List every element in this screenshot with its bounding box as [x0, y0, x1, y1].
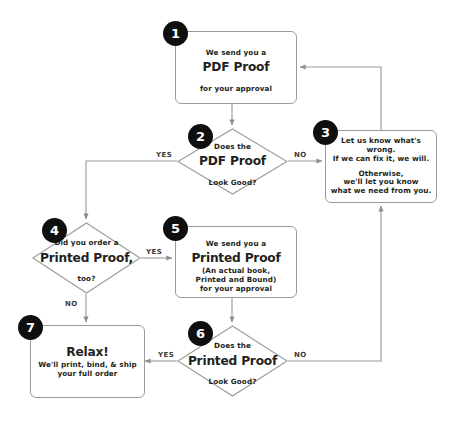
- edge-6-no-to-3: [288, 206, 381, 361]
- node-3-line5: what we need from you.: [330, 187, 432, 196]
- edge-2-yes-to-4: [86, 161, 177, 219]
- node-4-line2: Printed Proof,: [40, 251, 133, 266]
- node-6-line2: Printed Proof: [188, 354, 277, 369]
- node-4-line1: Did you order a: [54, 238, 118, 247]
- edge-label-2-no: NO: [293, 151, 308, 159]
- node-3-text: Let us know what's wrong. If we can fix …: [326, 137, 436, 196]
- node-2-badge: 2: [188, 124, 213, 149]
- node-7-line3: your full order: [38, 370, 137, 379]
- node-3-line2: If we can fix it, we will.: [330, 155, 432, 164]
- node-3-badge: 3: [313, 120, 338, 145]
- edge-label-2-yes: YES: [155, 151, 173, 159]
- edge-label-4-yes: YES: [145, 248, 163, 256]
- node-2-line2: PDF Proof: [199, 154, 266, 169]
- node-3-line1: Let us know what's wrong.: [330, 137, 432, 155]
- node-7-text: Relax! We'll print, bind, & ship your fu…: [34, 344, 141, 378]
- node-5-line5: for your approval: [191, 285, 280, 294]
- node-1-line3: for your approval: [200, 84, 272, 93]
- edge-label-6-no: NO: [293, 351, 308, 359]
- node-5-badge: 5: [163, 216, 188, 241]
- node-1-badge: 1: [163, 21, 188, 46]
- node-6-badge: 6: [188, 321, 213, 346]
- node-1-line1: We send you a: [206, 48, 266, 57]
- flowchart-canvas: We send you a PDF Proof for your approva…: [0, 0, 461, 422]
- node-6-line1: Does the: [214, 341, 251, 350]
- node-5-text: We send you a Printed Proof (An actual b…: [187, 231, 284, 294]
- node-1-pdf-proof[interactable]: We send you a PDF Proof for your approva…: [175, 31, 297, 104]
- node-4-line3: too?: [78, 274, 96, 283]
- node-7-relax[interactable]: Relax! We'll print, bind, & ship your fu…: [30, 325, 145, 398]
- node-1-line2: PDF Proof: [200, 60, 272, 75]
- edge-label-6-yes: YES: [157, 351, 175, 359]
- node-1-text: We send you a PDF Proof for your approva…: [196, 40, 276, 96]
- node-3-let-us-know[interactable]: Let us know what's wrong. If we can fix …: [325, 130, 437, 203]
- node-6-line3: Look Good?: [209, 377, 257, 386]
- node-5-line2: Printed Proof: [191, 251, 280, 266]
- node-7-line1: Relax!: [38, 345, 137, 360]
- edge-3-to-1: [300, 67, 381, 130]
- node-4-badge: 4: [42, 218, 67, 243]
- node-2-line3: Look Good?: [209, 178, 257, 187]
- node-5-printed-proof[interactable]: We send you a Printed Proof (An actual b…: [175, 226, 297, 298]
- edge-label-4-no: NO: [64, 300, 79, 308]
- node-5-line1: We send you a: [206, 239, 266, 248]
- node-7-badge: 7: [18, 315, 43, 340]
- node-2-line1: Does the: [214, 142, 251, 151]
